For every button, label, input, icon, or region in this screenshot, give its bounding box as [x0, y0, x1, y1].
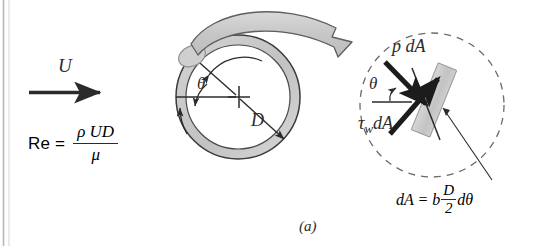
- area-element-fraction: D 2: [441, 182, 456, 217]
- dA-leader-line: [443, 108, 492, 180]
- area-element-numerator: D: [441, 182, 456, 199]
- dA-leader-arrowhead: [443, 108, 450, 116]
- cylinder-diameter-label: D: [251, 110, 264, 131]
- area-element-rhs: dθ: [457, 191, 473, 209]
- area-element-equation: dA = b D 2 dθ: [396, 182, 473, 217]
- detail-angle-label: θ: [369, 74, 377, 94]
- area-element-lhs: dA = b: [396, 191, 440, 209]
- reynolds-lhs-label: Re =: [28, 134, 65, 154]
- freestream-velocity-label: U: [58, 55, 72, 77]
- area-element-denominator: 2: [443, 200, 455, 217]
- theta-arc-upper: [209, 57, 262, 75]
- tau-subscript-w: w: [364, 121, 373, 136]
- shear-dA-text: dA: [373, 113, 393, 133]
- reynolds-fraction: ρ UD μ: [73, 122, 118, 165]
- shear-force-label: τwdA: [358, 113, 393, 137]
- cylinder-angle-label: θ: [197, 74, 205, 94]
- pressure-force-label: p dA: [392, 36, 426, 57]
- figure-caption: (a): [299, 218, 317, 235]
- reynolds-denominator: μ: [87, 144, 104, 165]
- detail-theta-arc: [390, 88, 396, 101]
- reynolds-number-equation: Re = ρ UD μ: [28, 122, 118, 165]
- reynolds-numerator: ρ UD: [73, 122, 118, 143]
